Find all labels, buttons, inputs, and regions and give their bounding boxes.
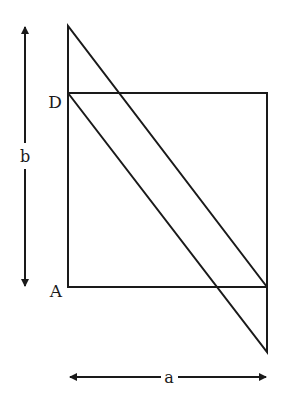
dimension-b: b (20, 27, 30, 286)
label-a-corner: A (49, 281, 63, 301)
geometry-diagram: b a D A (0, 0, 281, 395)
dimension-a: a (70, 368, 266, 387)
parallelogram (68, 26, 267, 352)
square (68, 93, 267, 287)
label-b: b (20, 147, 30, 166)
label-d: D (48, 92, 62, 112)
label-a: a (164, 368, 174, 387)
